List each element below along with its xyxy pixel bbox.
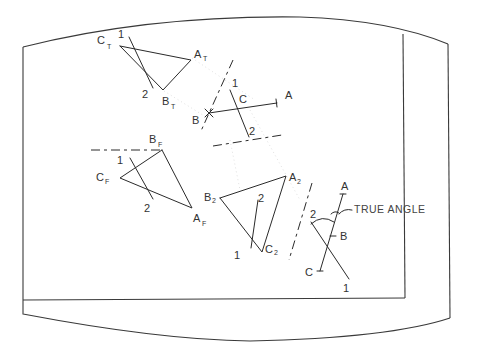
frame-top-curve xyxy=(23,17,448,47)
aux-view-1: 1 C A B 2 xyxy=(192,60,293,146)
label-b2: B xyxy=(204,191,211,203)
svg-text:F: F xyxy=(202,220,206,227)
label-at: A xyxy=(194,48,202,60)
frame-right-edge xyxy=(448,44,450,318)
label-cf: C xyxy=(96,171,104,183)
svg-text:2: 2 xyxy=(310,208,316,220)
svg-text:2: 2 xyxy=(274,249,278,256)
aux-view-2: B 2 A 2 2 C 2 1 xyxy=(204,171,301,261)
svg-text:2: 2 xyxy=(212,197,216,204)
inner-bottom-rule xyxy=(23,298,405,300)
label-a2: A xyxy=(289,171,297,183)
line-1-2-top xyxy=(129,37,153,88)
leader-line xyxy=(339,210,352,215)
label-ct: C xyxy=(97,34,105,46)
drawing-canvas: C T 1 A T 2 B T B F 1 C F 2 A F 1 C A B … xyxy=(0,0,496,354)
label-c-aux1: C xyxy=(239,93,247,105)
line-1-2-aux2 xyxy=(251,200,258,248)
top-view: C T 1 A T 2 B T xyxy=(97,28,208,110)
triangle-aux2 xyxy=(220,176,286,252)
svg-text:2: 2 xyxy=(249,125,255,137)
screen-frame xyxy=(23,17,450,341)
svg-text:2: 2 xyxy=(258,192,264,204)
label-bt: B xyxy=(162,95,169,107)
true-angle-note: TRUE ANGLE xyxy=(354,203,426,215)
front-view: B F 1 C F 2 A F xyxy=(91,133,206,227)
label-c2: C xyxy=(265,243,273,255)
triangle-top xyxy=(120,46,191,90)
label-c-true: C xyxy=(305,266,313,278)
svg-text:2: 2 xyxy=(297,178,301,185)
frame-bottom-curve xyxy=(23,300,450,341)
svg-text:1: 1 xyxy=(343,282,349,294)
svg-text:F: F xyxy=(158,141,162,148)
fold-line-aux1 xyxy=(201,60,233,131)
svg-text:1: 1 xyxy=(118,28,124,40)
svg-text:2: 2 xyxy=(142,88,148,100)
svg-text:F: F xyxy=(105,178,109,185)
svg-text:2: 2 xyxy=(144,202,150,214)
label-a-true: A xyxy=(341,180,349,192)
label-b-aux1: B xyxy=(192,114,199,126)
svg-text:T: T xyxy=(171,103,176,110)
svg-text:1: 1 xyxy=(234,249,240,261)
label-b-true: B xyxy=(340,230,347,242)
svg-text:T: T xyxy=(203,55,208,62)
fold-line-aux2 xyxy=(213,135,282,146)
label-bf: B xyxy=(149,133,156,145)
fold-line-aux3 xyxy=(289,183,312,260)
label-af: A xyxy=(193,212,201,224)
svg-text:1: 1 xyxy=(232,77,238,89)
label-a-aux1: A xyxy=(285,89,293,101)
svg-text:1: 1 xyxy=(117,154,123,166)
svg-text:T: T xyxy=(107,43,112,50)
inner-right-rule xyxy=(403,34,405,298)
